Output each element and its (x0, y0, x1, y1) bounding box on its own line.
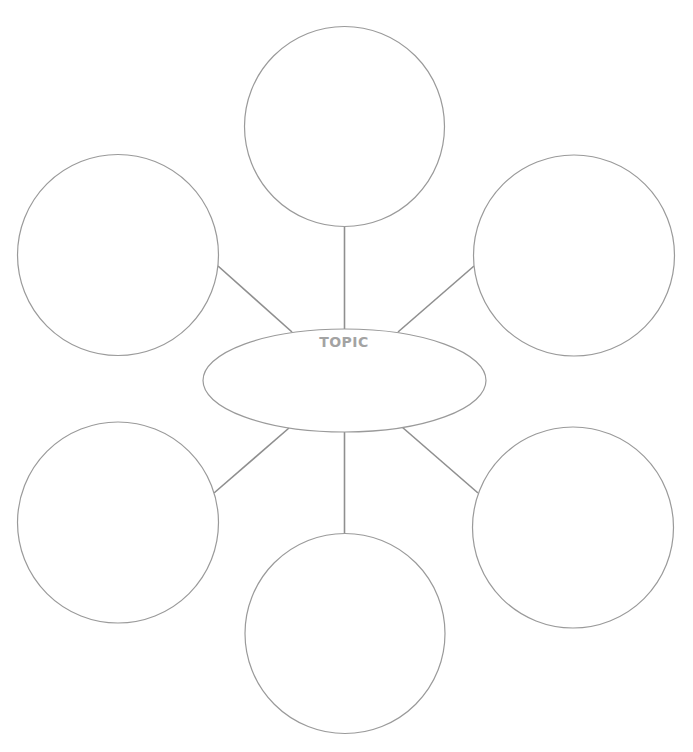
node-circle-bottom[interactable] (245, 534, 445, 734)
connector-lower-right (402, 427, 478, 493)
bubble-map-diagram (0, 0, 693, 752)
node-circle-lower-left[interactable] (18, 422, 219, 623)
connector-upper-right (398, 266, 474, 332)
connector-lower-left (214, 428, 289, 493)
node-circle-upper-left[interactable] (18, 155, 219, 356)
connector-upper-left (218, 266, 292, 332)
node-circle-top[interactable] (245, 27, 445, 227)
topic-label: TOPIC (244, 334, 444, 350)
node-circle-lower-right[interactable] (473, 427, 674, 628)
node-circle-upper-right[interactable] (474, 155, 675, 356)
